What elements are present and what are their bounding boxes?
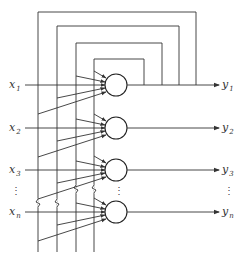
input-labels: x1 x2 x3 ⋮ xn xyxy=(9,78,21,220)
neuron-2 xyxy=(105,117,127,139)
input-label-x3: x3 xyxy=(9,163,21,178)
recurrent-network-diagram: x1 x2 x3 ⋮ xn y1 y2 y3 ⋮ yn ⋮ xyxy=(0,0,238,260)
neuron-ellipsis: ⋮ xyxy=(114,185,124,196)
neuron-n-group xyxy=(25,198,219,241)
line-break-marks xyxy=(36,185,96,207)
input-label-xn: xn xyxy=(9,205,21,220)
neuron-3 xyxy=(105,159,127,181)
neuron-n xyxy=(105,201,127,223)
input-ellipsis: ⋮ xyxy=(11,185,21,196)
output-label-yn: yn xyxy=(221,205,234,220)
input-label-x2: x2 xyxy=(9,121,21,136)
output-label-y1: y1 xyxy=(221,78,234,93)
neuron-1 xyxy=(105,74,127,96)
input-label-x1: x1 xyxy=(9,78,21,93)
output-label-y3: y3 xyxy=(221,163,234,178)
output-labels: y1 y2 y3 ⋮ yn xyxy=(221,78,234,220)
neuron-1-group xyxy=(25,71,219,114)
neuron-2-group xyxy=(25,114,219,157)
output-label-y2: y2 xyxy=(221,121,234,136)
output-ellipsis: ⋮ xyxy=(224,185,234,196)
